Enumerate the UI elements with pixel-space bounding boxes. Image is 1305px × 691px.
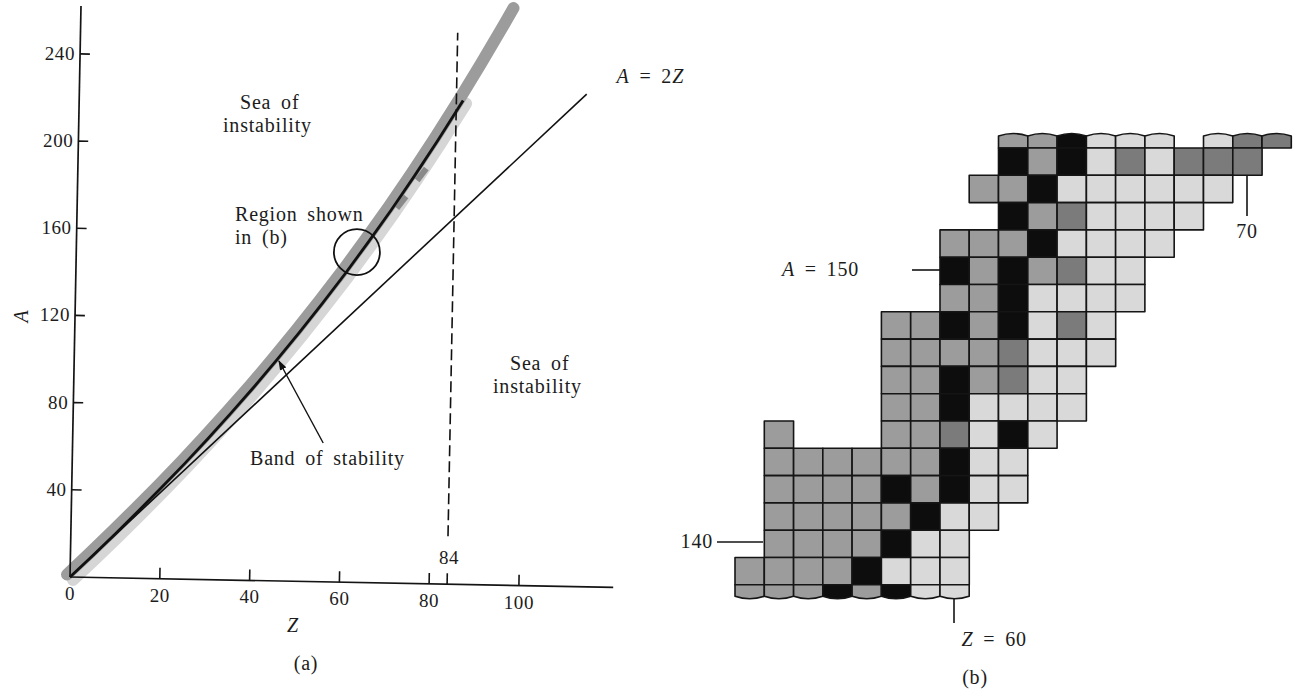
band-of-stability-curve [70, 101, 463, 578]
y-tick-label: 200 [43, 130, 73, 151]
nuclide-cell [1028, 312, 1057, 339]
nuclide-cell [1174, 203, 1203, 230]
panel-a-caption: (a) [294, 652, 319, 675]
nuclide-cell [764, 448, 793, 475]
nuclide-cell [999, 366, 1028, 393]
nuclide-cell [1204, 148, 1233, 175]
nuclide-cell [1116, 230, 1145, 257]
a-equals-2z-rhs: Z [672, 65, 684, 87]
nuclide-cell [1057, 312, 1086, 339]
nuclide-cell [999, 148, 1028, 175]
nuclide-cell [1057, 339, 1086, 366]
nuclide-cell [1028, 257, 1057, 284]
a150-label-rest: = 150 [795, 258, 859, 280]
nuclide-cell [999, 448, 1028, 475]
nuclide-cell [969, 230, 998, 257]
nuclide-cell [764, 558, 793, 585]
nuclide-cell [1057, 366, 1086, 393]
nuclide-cell [852, 585, 881, 599]
y-tick-label: 40 [46, 479, 66, 500]
nuclide-cell [794, 558, 823, 585]
nuclide-cell [940, 285, 969, 312]
nuclide-cell [794, 530, 823, 557]
nuclide-cell [1028, 134, 1057, 149]
figure: 408012016020024002040608010084 Sea of in… [0, 0, 1305, 691]
nuclide-cell [1145, 203, 1174, 230]
nuclide-cell [1028, 421, 1057, 448]
y-tick-label: 120 [40, 304, 70, 325]
x-tick-label: 0 [65, 583, 75, 604]
nuclide-cell [823, 558, 852, 585]
nuclide-cell [1086, 203, 1115, 230]
nuclide-cell [1262, 134, 1291, 149]
nuclide-cell [999, 476, 1028, 503]
nuclide-cell [940, 394, 969, 421]
nuclide-cell [1174, 148, 1203, 175]
nuclide-cell [969, 448, 998, 475]
nuclide-cell [1116, 175, 1145, 202]
x-tick-label: 80 [419, 590, 439, 611]
nuclide-cell [823, 585, 852, 599]
nuclide-cell [911, 312, 940, 339]
nuclide-cell [911, 585, 940, 599]
nuclide-cell [1057, 148, 1086, 175]
y-tick-label: 160 [41, 217, 71, 238]
nuclide-cell [1204, 134, 1233, 149]
nuclide-cell [823, 503, 852, 530]
nuclide-cell [969, 312, 998, 339]
nuclide-cell [1145, 175, 1174, 202]
z60-label: Z = 60 [893, 628, 1076, 650]
nuclide-cell [764, 421, 793, 448]
nuclide-cell [1028, 339, 1057, 366]
nuclide-cell [852, 503, 881, 530]
nuclide-cell [735, 558, 764, 585]
nuclide-cell [999, 175, 1028, 202]
nuclide-cell [881, 394, 910, 421]
nuclide-cell [999, 339, 1028, 366]
nuclide-cell [1057, 285, 1086, 312]
nuclide-cell [1086, 312, 1115, 339]
nuclide-cell [1116, 257, 1145, 284]
nuclide-cell [1057, 134, 1086, 149]
y-axis [70, 6, 81, 577]
nuclide-cell [940, 339, 969, 366]
y-tick-label: 240 [45, 43, 75, 64]
nuclide-cell [940, 366, 969, 393]
nuclide-cell [999, 230, 1028, 257]
sea-of-instability-upper-line1: Sea of [240, 91, 299, 113]
nuclide-cell [1086, 285, 1115, 312]
nuclide-cell [1057, 230, 1086, 257]
nuclide-cell [794, 503, 823, 530]
nuclide-cell [969, 503, 998, 530]
x-tick-label: 40 [239, 586, 259, 607]
nuclide-cell [911, 394, 940, 421]
region-shown-label-line1: Region shown [235, 203, 364, 226]
nuclide-cell [911, 421, 940, 448]
nuclide-cell [1028, 366, 1057, 393]
nuclide-cell [969, 394, 998, 421]
nuclide-cell [999, 312, 1028, 339]
nuclide-cell [1057, 203, 1086, 230]
nuclide-cell [999, 285, 1028, 312]
nuclide-cell [940, 448, 969, 475]
nuclide-cell [911, 503, 940, 530]
nuclide-cell [1116, 285, 1145, 312]
nuclide-cell [940, 558, 969, 585]
nuclide-cell [1028, 148, 1057, 175]
nuclide-cell [1145, 134, 1174, 149]
region-shown-label-line2: in (b) [235, 226, 288, 249]
nuclide-cell [940, 230, 969, 257]
nuclide-cell [852, 530, 881, 557]
nuclide-cell [1028, 285, 1057, 312]
nuclide-cell [1057, 175, 1086, 202]
y-axis-label: A [10, 309, 32, 324]
nuclide-cell [735, 585, 764, 599]
nuclide-grid [735, 134, 1291, 599]
x-tick-label: 100 [504, 592, 534, 613]
nuclide-cell [881, 476, 910, 503]
nuclide-cell [794, 476, 823, 503]
nuclide-cell [1204, 175, 1233, 202]
a150-label: A = 150 [713, 258, 908, 280]
nuclide-cell [794, 448, 823, 475]
nuclide-cell [1145, 230, 1174, 257]
